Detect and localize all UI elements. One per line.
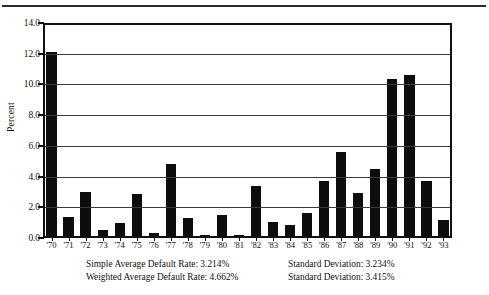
plot-area bbox=[43, 23, 452, 238]
x-axis-tick-label: '81 bbox=[230, 240, 247, 251]
bar bbox=[200, 235, 210, 236]
bar bbox=[404, 75, 414, 236]
gridline bbox=[45, 177, 450, 178]
x-axis-tick-label: '79 bbox=[196, 240, 213, 251]
default-rate-bar-chart-figure: 0.02.04.06.08.010.012.014.0 Percent '70'… bbox=[0, 0, 489, 295]
x-axis-tick-label: '74 bbox=[111, 240, 128, 251]
gridline bbox=[45, 115, 450, 116]
x-axis-tick-label: '82 bbox=[248, 240, 265, 251]
gridline bbox=[45, 54, 450, 55]
x-axis-labels: '70'71'72'73'74'75'76'77'78'79'80'81'82'… bbox=[43, 240, 452, 254]
x-axis-tick-label: '89 bbox=[367, 240, 384, 251]
simple-average-default-rate: Simple Average Default Rate: 3.214% bbox=[86, 258, 229, 271]
x-axis-tick-label: '84 bbox=[282, 240, 299, 251]
stats-row: Simple Average Default Rate: 3.214% Stan… bbox=[0, 258, 489, 271]
bar bbox=[336, 152, 346, 236]
gridline bbox=[45, 207, 450, 208]
x-axis-tick-label: '71 bbox=[60, 240, 77, 251]
x-axis-tick-label: '80 bbox=[213, 240, 230, 251]
x-axis-tick-label: '88 bbox=[350, 240, 367, 251]
x-axis-tick-label: '90 bbox=[384, 240, 401, 251]
weighted-average-standard-deviation: Standard Deviation: 3.415% bbox=[288, 271, 395, 284]
x-axis-tick-label: '75 bbox=[128, 240, 145, 251]
bar bbox=[302, 213, 312, 236]
page-separator-rule bbox=[2, 5, 486, 7]
bar bbox=[268, 222, 278, 236]
x-axis-tick-label: '76 bbox=[145, 240, 162, 251]
x-axis-tick-label: '78 bbox=[179, 240, 196, 251]
bar bbox=[166, 164, 176, 236]
x-axis-tick-label: '93 bbox=[435, 240, 452, 251]
x-axis-tick-label: '77 bbox=[162, 240, 179, 251]
bar bbox=[319, 181, 329, 236]
chart-statistics-footer: Simple Average Default Rate: 3.214% Stan… bbox=[0, 258, 489, 283]
x-axis-tick-label: '87 bbox=[333, 240, 350, 251]
bar bbox=[387, 79, 397, 236]
bar bbox=[370, 169, 380, 236]
bar bbox=[217, 215, 227, 236]
bar bbox=[421, 181, 431, 236]
x-axis-tick-label: '72 bbox=[77, 240, 94, 251]
bar bbox=[63, 217, 73, 237]
x-axis-tick-label: '86 bbox=[316, 240, 333, 251]
bar bbox=[149, 233, 159, 236]
top-text-fragment bbox=[120, 0, 150, 2]
y-axis-ticks: 0.02.04.06.08.010.012.014.0 bbox=[0, 0, 40, 295]
bar bbox=[98, 230, 108, 236]
bar bbox=[132, 194, 142, 236]
bar bbox=[80, 192, 90, 236]
gridline bbox=[45, 84, 450, 85]
x-axis-tick-label: '70 bbox=[43, 240, 60, 251]
bar bbox=[285, 225, 295, 236]
bar bbox=[183, 218, 193, 236]
simple-average-standard-deviation: Standard Deviation: 3.234% bbox=[288, 258, 395, 271]
x-axis-tick-label: '83 bbox=[265, 240, 282, 251]
bar bbox=[353, 193, 363, 236]
bar bbox=[46, 52, 56, 236]
x-axis-tick-label: '85 bbox=[299, 240, 316, 251]
bar bbox=[234, 235, 244, 236]
bar bbox=[438, 220, 448, 236]
bar bbox=[251, 186, 261, 236]
weighted-average-default-rate: Weighted Average Default Rate: 4.662% bbox=[86, 271, 238, 284]
gridline bbox=[45, 146, 450, 147]
x-axis-tick-label: '91 bbox=[401, 240, 418, 251]
x-axis-tick-label: '92 bbox=[418, 240, 435, 251]
bar-series bbox=[45, 25, 450, 236]
y-axis-title: Percent bbox=[6, 102, 16, 132]
stats-row: Weighted Average Default Rate: 4.662% St… bbox=[0, 271, 489, 284]
bar bbox=[115, 223, 125, 236]
x-axis-tick-label: '73 bbox=[94, 240, 111, 251]
